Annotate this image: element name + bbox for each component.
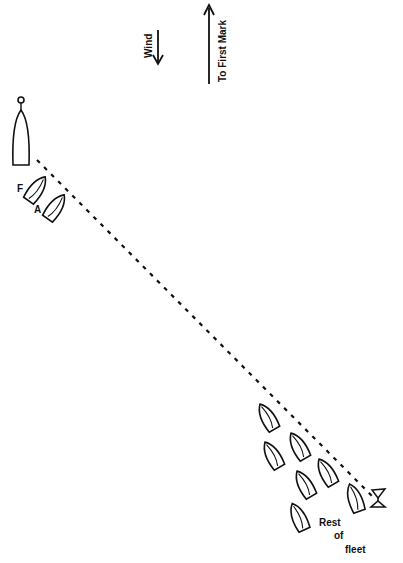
start-line: [37, 160, 372, 496]
fleet-boat: [291, 468, 317, 500]
flag-icon: [18, 97, 24, 103]
boat-a-label: A: [34, 204, 41, 215]
fleet-boat: [285, 430, 311, 462]
pin-buoy: [371, 489, 385, 507]
fleet: [254, 401, 366, 533]
wind-indicator: Wind: [143, 30, 163, 64]
fleet-boat: [259, 439, 285, 471]
buoy-icon: [372, 489, 385, 498]
fleet-label-line2: of: [334, 530, 344, 541]
fleet-boat: [286, 501, 310, 533]
race-start-diagram: Wind To First Mark F A: [0, 0, 403, 563]
fleet-label: Rest of fleet: [319, 517, 366, 555]
first-mark-indicator: To First Mark: [204, 5, 228, 84]
fleet-label-line3: fleet: [345, 544, 366, 555]
first-mark-label: To First Mark: [217, 20, 228, 82]
committee-boat: [13, 97, 29, 165]
boat-f-label: F: [17, 183, 23, 194]
fleet-label-line1: Rest: [319, 517, 341, 528]
fleet-boat: [254, 401, 280, 433]
boat-f: F: [17, 173, 51, 204]
wind-label: Wind: [143, 34, 154, 58]
